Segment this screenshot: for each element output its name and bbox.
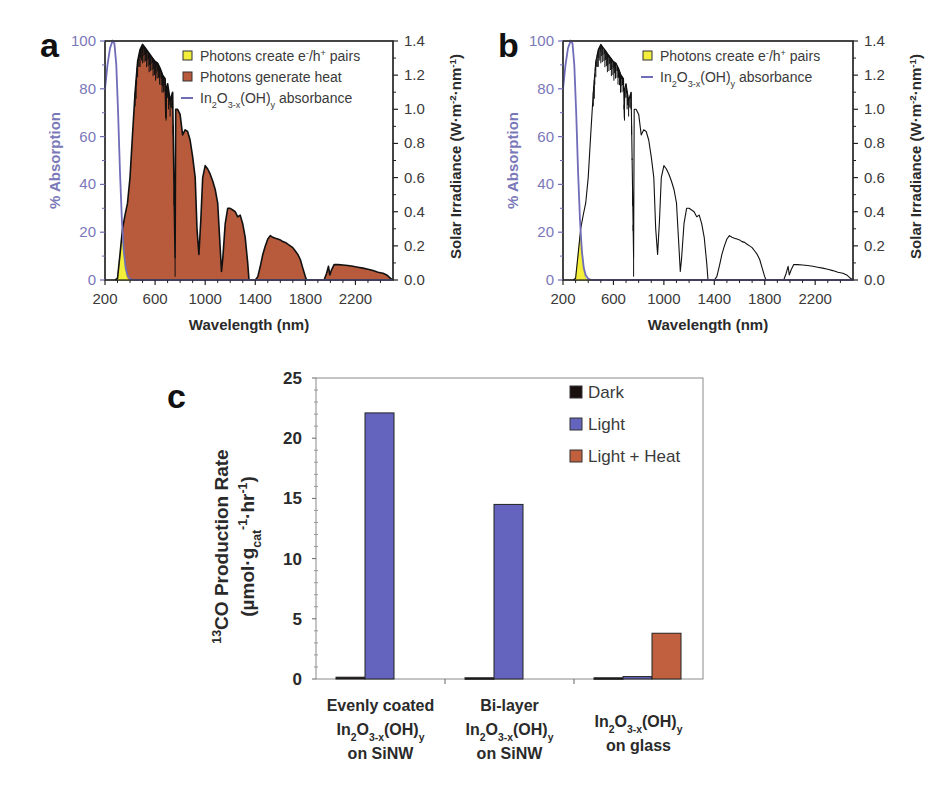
svg-text:1800: 1800 [289,290,322,307]
svg-text:0.0: 0.0 [864,271,885,288]
svg-text:Light: Light [588,415,625,434]
bar-light-0 [365,413,394,679]
svg-text:In2O3-x(OH)y: In2O3-x(OH)y [337,721,425,743]
svg-text:on SiNW: on SiNW [477,745,544,762]
svg-text:0.4: 0.4 [864,203,885,220]
bar-light-1 [494,504,523,679]
panel-a-legend: Photons create e-/h+ pairsPhotons genera… [181,48,360,110]
svg-text:Photons create e-/h+ pairs: Photons create e-/h+ pairs [200,48,360,64]
svg-text:1000: 1000 [188,290,221,307]
panel-b-legend: Photons create e-/h+ pairsIn2O3-x(OH)y a… [641,48,820,89]
svg-text:10: 10 [283,550,302,569]
svg-text:2200: 2200 [798,290,831,307]
svg-text:0.0: 0.0 [404,271,425,288]
svg-text:13CO Production Rate: 13CO Production Rate [210,449,232,643]
svg-text:on SiNW: on SiNW [348,745,415,762]
svg-text:0.4: 0.4 [404,203,425,220]
svg-text:0.2: 0.2 [864,237,885,254]
svg-text:2200: 2200 [339,290,372,307]
svg-text:Wavelength (nm): Wavelength (nm) [648,316,768,333]
panel-a-chart: a 0204060801000.00.20.40.60.81.01.21.420… [40,26,464,333]
bar-light-2 [623,677,652,679]
figure-canvas: a 0204060801000.00.20.40.60.81.01.21.420… [0,0,945,796]
svg-text:0: 0 [88,271,96,288]
svg-text:0.6: 0.6 [404,169,425,186]
bar-dark-1 [465,678,494,680]
svg-text:0: 0 [293,670,302,689]
svg-text:20: 20 [537,223,554,240]
bar-light-heat-2 [652,633,681,679]
svg-text:0.8: 0.8 [864,134,885,151]
svg-text:25: 25 [283,369,302,388]
panel-c-plot-area [316,378,703,679]
svg-text:Photons create e-/h+ pairs: Photons create e-/h+ pairs [660,48,820,64]
svg-text:80: 80 [79,80,96,97]
svg-text:100: 100 [71,32,96,49]
panel-b-label: b [498,26,519,64]
svg-text:100: 100 [529,32,554,49]
svg-text:% Absorption: % Absorption [504,112,521,209]
panel-c-label: c [167,377,186,415]
svg-text:5: 5 [293,610,302,629]
svg-text:(µmol·gcat-1·hr-1): (µmol·gcat-1·hr-1) [236,476,264,616]
svg-text:15: 15 [283,489,302,508]
bar-dark-2 [594,678,623,680]
svg-text:1.0: 1.0 [404,100,425,117]
svg-text:In2O3-x(OH)y: In2O3-x(OH)y [466,721,554,743]
panel-b-chart: b 0204060801000.00.20.40.60.81.01.21.420… [498,26,924,333]
svg-text:60: 60 [79,128,96,145]
svg-text:60: 60 [537,128,554,145]
svg-text:1.4: 1.4 [864,32,885,49]
svg-text:1000: 1000 [647,290,680,307]
bar-dark-0 [336,677,365,679]
svg-text:Bi-layer: Bi-layer [480,697,539,714]
svg-text:Solar Irradiance (W·m-2·nm-1): Solar Irradiance (W·m-2·nm-1) [907,54,925,259]
svg-text:40: 40 [537,175,554,192]
svg-text:600: 600 [601,290,626,307]
svg-text:200: 200 [550,290,575,307]
svg-text:Evenly coated: Evenly coated [327,697,435,714]
svg-text:0.8: 0.8 [404,134,425,151]
svg-text:80: 80 [537,80,554,97]
svg-text:1.2: 1.2 [864,66,885,83]
svg-text:1.4: 1.4 [404,32,425,49]
svg-text:1.2: 1.2 [404,66,425,83]
svg-text:Light + Heat: Light + Heat [588,447,680,466]
svg-text:Photons generate heat: Photons generate heat [200,69,342,85]
svg-text:In2O3-x(OH)y: In2O3-x(OH)y [595,713,683,735]
svg-text:20: 20 [79,223,96,240]
svg-text:40: 40 [79,175,96,192]
svg-text:0: 0 [546,271,554,288]
svg-text:1400: 1400 [239,290,272,307]
svg-text:Solar Irradiance (W·m-2·nm-1): Solar Irradiance (W·m-2·nm-1) [447,54,465,259]
svg-text:200: 200 [92,290,117,307]
svg-text:1.0: 1.0 [864,100,885,117]
panel-c-chart: c Evenly coatedIn2O3-x(OH)yon SiNWBi-lay… [167,369,703,762]
svg-text:20: 20 [283,429,302,448]
svg-text:0.2: 0.2 [404,237,425,254]
svg-text:Wavelength (nm): Wavelength (nm) [189,316,309,333]
svg-text:% Absorption: % Absorption [46,112,63,209]
panel-a-label: a [40,26,60,64]
svg-text:0.6: 0.6 [864,169,885,186]
svg-text:on glass: on glass [606,737,671,754]
svg-text:Dark: Dark [588,383,624,402]
svg-text:1800: 1800 [748,290,781,307]
svg-text:600: 600 [143,290,168,307]
svg-text:1400: 1400 [698,290,731,307]
